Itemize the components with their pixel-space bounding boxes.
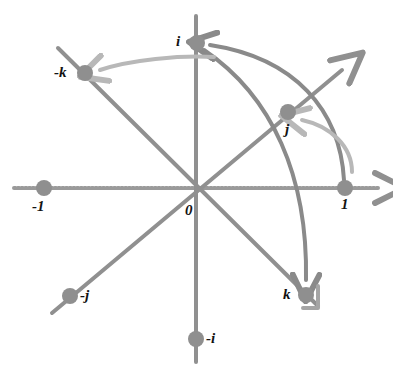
quaternion-diagram: i -i j -j k -k 1 -1 0 (0, 0, 393, 370)
label-i: i (176, 34, 180, 49)
k-axis-line (58, 48, 318, 306)
label-neg-i: -i (206, 331, 215, 346)
k-axis (58, 48, 318, 306)
node-dot-neg-k (77, 65, 93, 81)
label-neg-k: -k (54, 65, 67, 80)
arc-one-to-i (210, 45, 344, 180)
node-dot-neg-j (62, 288, 78, 304)
node-dot-k (298, 287, 314, 303)
node-dot-neg-i (188, 331, 204, 347)
diagram-canvas (0, 0, 393, 370)
node-dot-i (189, 35, 205, 51)
arc-one-to-i-path (210, 45, 344, 180)
label-j: j (285, 122, 289, 137)
node-dot-neg-one (36, 180, 52, 196)
label-neg-one: -1 (32, 199, 45, 214)
label-k: k (283, 287, 291, 302)
label-origin: 0 (185, 203, 193, 218)
label-neg-j: -j (80, 288, 89, 303)
label-one: 1 (341, 197, 349, 212)
arc-one-to-j-path (302, 120, 352, 172)
node-dot-one (337, 180, 353, 196)
node-dot-j (280, 104, 296, 120)
arc-one-to-j (302, 120, 352, 172)
